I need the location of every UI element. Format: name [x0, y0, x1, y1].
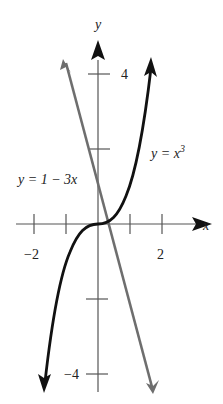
y-tick-label-4: 4 [121, 67, 128, 82]
line-arrow-top-icon [60, 59, 71, 73]
cubic-label: y = x3 [149, 143, 185, 161]
graph-canvas: y x 4 −4 −2 2 y = x3 y = 1 − 3x [0, 0, 223, 404]
line-series [66, 63, 152, 387]
x-tick-label-2: 2 [157, 247, 164, 262]
line-arrow-bottom-icon [146, 380, 159, 394]
cubic-label-text: y = x [149, 146, 181, 161]
x-tick-label-neg2: −2 [24, 247, 39, 262]
line-label: y = 1 − 3x [16, 172, 78, 187]
x-axis-label: x [202, 218, 210, 233]
y-tick-label-neg4: −4 [64, 367, 79, 382]
cubic-label-exponent: 3 [179, 143, 185, 154]
y-axis-arrow-icon [91, 40, 105, 60]
y-axis-label: y [93, 17, 102, 32]
